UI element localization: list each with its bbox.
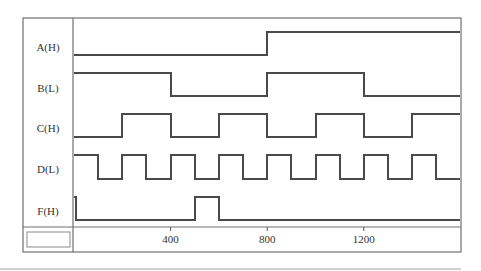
tick-label: 800 [259, 233, 276, 245]
diagram-frame [23, 18, 461, 252]
time-axis-ticks: 4008001200 [162, 227, 375, 245]
waveform-a [74, 32, 460, 55]
waveform-group [74, 32, 460, 220]
signal-label-a: A(H) [36, 41, 60, 54]
tick-label: 400 [162, 233, 179, 245]
waveform-b [74, 73, 460, 96]
corner-input-box[interactable] [27, 232, 70, 247]
signal-label-b: B(L) [37, 82, 59, 95]
waveform-c [74, 114, 460, 137]
signal-label-f: F(H) [37, 205, 59, 218]
waveform-f [74, 197, 460, 220]
signal-label-c: C(H) [37, 122, 60, 135]
tick-label: 1200 [353, 233, 376, 245]
timing-diagram: A(H) B(L) C(H) D(L) F(H) 4008001200 [0, 0, 481, 271]
signal-label-d: D(L) [37, 163, 59, 176]
waveform-d [74, 155, 460, 179]
